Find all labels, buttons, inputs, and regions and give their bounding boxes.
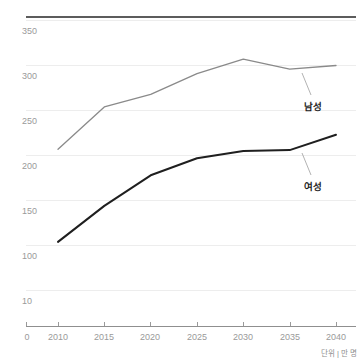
y-tick-label-350: 350 (22, 26, 37, 36)
y-tick-label-300: 300 (22, 71, 37, 81)
x-axis-ticks (27, 322, 337, 326)
chart-canvas: 350 300 250 200 150 100 10 남성 여성 (0, 0, 362, 363)
x-tick-label-origin: 0 (24, 332, 29, 342)
gridlines (26, 21, 356, 291)
x-tick-label-2010: 2010 (48, 332, 68, 342)
series-line-male (58, 59, 336, 149)
x-tick-label-2030: 2030 (233, 332, 253, 342)
y-axis-labels: 350 300 250 200 150 100 10 (22, 26, 37, 306)
y-tick-label-250: 250 (22, 116, 37, 126)
series-label-female: 여성 (304, 181, 322, 192)
leader-line-male (302, 73, 311, 95)
unit-note: 단위 | 만 명 (321, 348, 357, 358)
x-tick-label-2015: 2015 (94, 332, 114, 342)
series-label-male: 남성 (304, 101, 322, 112)
x-tick-label-2035: 2035 (280, 332, 300, 342)
y-tick-label-200: 200 (22, 161, 37, 171)
y-tick-label-150: 150 (22, 206, 37, 216)
y-tick-label-10: 10 (22, 296, 32, 306)
x-tick-label-2020: 2020 (140, 332, 160, 342)
leader-line-female (302, 153, 311, 175)
x-tick-label-2040: 2040 (326, 332, 346, 342)
line-chart: 350 300 250 200 150 100 10 남성 여성 (0, 0, 362, 363)
y-tick-label-100: 100 (22, 251, 37, 261)
series-line-female (58, 135, 336, 242)
x-axis-labels: 0 2010 2015 2020 2025 2030 2035 2040 (24, 332, 346, 342)
x-tick-label-2025: 2025 (187, 332, 207, 342)
